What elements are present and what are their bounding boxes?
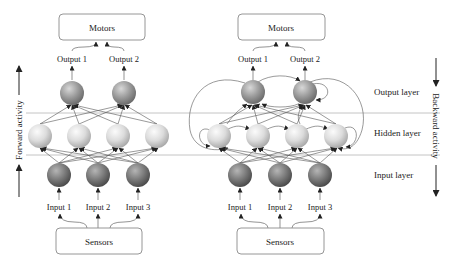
output1-to-motors — [72, 42, 96, 51]
input-node — [126, 163, 150, 187]
sensors-to-input3 — [110, 214, 138, 228]
hidden-node — [28, 124, 52, 148]
output-2-label: Output 2 — [290, 54, 320, 64]
hidden-node — [324, 124, 348, 148]
input-node — [47, 163, 71, 187]
output-layer-label: Output layer — [374, 87, 419, 97]
hidden-output-edges — [40, 105, 157, 124]
input-3-label: Input 3 — [126, 202, 150, 212]
hidden-node — [145, 124, 169, 148]
motors-label: Motors — [268, 23, 295, 33]
output-node — [241, 80, 265, 104]
output-node — [293, 80, 317, 104]
input-node — [86, 163, 110, 187]
output1-to-motors — [253, 42, 276, 51]
output-2-label: Output 2 — [109, 54, 139, 64]
output-node — [60, 81, 84, 105]
hidden-output-edges — [219, 105, 336, 124]
right-network: Motors Output 1 Output 2 — [189, 14, 363, 254]
left-network: Motors Output 1 Output 2 — [28, 14, 169, 254]
hidden-node — [207, 124, 231, 148]
neural-network-diagram: Motors Output 1 Output 2 — [0, 0, 452, 267]
sensors-to-input3 — [292, 214, 320, 228]
output-1-label: Output 1 — [238, 54, 268, 64]
input-1-label: Input 1 — [228, 202, 252, 212]
input-node — [268, 163, 292, 187]
hidden-node — [67, 124, 91, 148]
input-hidden-edges — [40, 148, 158, 163]
input-hidden-edges — [219, 148, 337, 163]
input-layer-label: Input layer — [374, 170, 413, 180]
sensors-to-input1 — [60, 214, 87, 228]
sensors-label: Sensors — [85, 237, 113, 247]
hidden-node — [285, 124, 309, 148]
input-node — [308, 163, 332, 187]
backward-activity-label: Backward activity — [431, 93, 441, 159]
backward-activity-indicator: Backward activity — [431, 58, 441, 196]
hidden-node — [106, 124, 130, 148]
hidden-node — [246, 124, 270, 148]
input-2-label: Input 2 — [86, 202, 110, 212]
input-node — [228, 163, 252, 187]
input-3-label: Input 3 — [308, 202, 332, 212]
sensors-to-input1 — [241, 214, 268, 228]
sensors-label: Sensors — [266, 237, 294, 247]
forward-activity-indicator: Forward activity — [14, 66, 24, 197]
output2-to-motors — [287, 42, 305, 51]
input-2-label: Input 2 — [268, 202, 292, 212]
forward-activity-label: Forward activity — [14, 100, 24, 160]
hidden-layer-label: Hidden layer — [374, 128, 421, 138]
input-1-label: Input 1 — [47, 202, 71, 212]
output-1-label: Output 1 — [57, 54, 87, 64]
output2-to-motors — [107, 42, 124, 51]
motors-label: Motors — [89, 23, 116, 33]
output-node — [112, 81, 136, 105]
